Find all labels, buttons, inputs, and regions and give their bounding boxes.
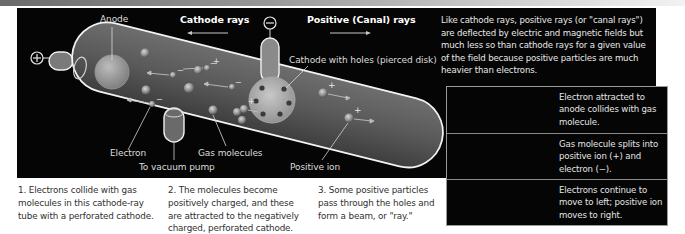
label-cathode-rays: Cathode rays [180, 14, 249, 25]
inset-step-text: Electrons continue to move to left; posi… [559, 184, 665, 221]
label-gas-molecules: Gas molecules [198, 148, 262, 158]
svg-text:−: − [156, 95, 163, 104]
label-cathode-with-holes: Cathode with holes (pierced disk) [289, 55, 437, 65]
svg-text:+: + [354, 105, 362, 115]
vacuum-pump-outlet [164, 108, 184, 160]
label-positive-ion: Positive ion [290, 162, 340, 172]
caption-step-3: 3. Some positive particles pass through … [318, 184, 443, 222]
label-anode: Anode [100, 14, 128, 24]
svg-text:−: − [177, 66, 184, 75]
svg-text:+: + [213, 57, 220, 66]
inset-process-box: Electron attracted to anode collides wit… [446, 86, 668, 226]
label-vacuum-pump: To vacuum pump [139, 162, 215, 172]
caption-step-1: 1. Electrons collide with gas molecules … [18, 184, 158, 222]
label-electron: Electron [110, 148, 146, 158]
label-positive-rays: Positive (Canal) rays [307, 14, 416, 25]
intro-description: Like cathode rays, positive rays (or "ca… [441, 14, 651, 77]
cathode-terminal-icon [261, 17, 279, 82]
inset-step-text: Gas molecule splits into positive ion (+… [559, 138, 665, 175]
inset-row-collision: Electron attracted to anode collides wit… [447, 87, 667, 133]
inset-step-text: Electron attracted to anode collides wit… [559, 91, 665, 128]
anode-terminal-icon [31, 52, 73, 70]
svg-text:+: + [248, 97, 255, 106]
anode-disk [95, 55, 129, 89]
caption-step-2: 2. The molecules become positively charg… [168, 184, 308, 234]
inset-row-separation: Electrons continue to move to left; posi… [447, 179, 667, 225]
svg-text:−: − [235, 78, 242, 87]
svg-text:+: + [328, 80, 336, 90]
inset-row-split: Gas molecule splits into positive ion (+… [447, 133, 667, 179]
